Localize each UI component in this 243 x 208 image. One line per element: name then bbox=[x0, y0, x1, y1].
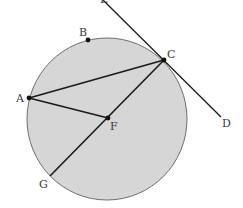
point-c bbox=[162, 58, 167, 63]
label-c: C bbox=[167, 48, 175, 61]
label-f: F bbox=[110, 120, 118, 133]
label-e: E bbox=[100, 0, 108, 6]
point-a bbox=[27, 96, 32, 101]
label-g: G bbox=[39, 178, 48, 191]
label-d: D bbox=[222, 117, 231, 130]
label-a: A bbox=[15, 92, 25, 105]
geometry-diagram: A B C D E F G bbox=[0, 0, 243, 208]
label-b: B bbox=[79, 26, 87, 39]
